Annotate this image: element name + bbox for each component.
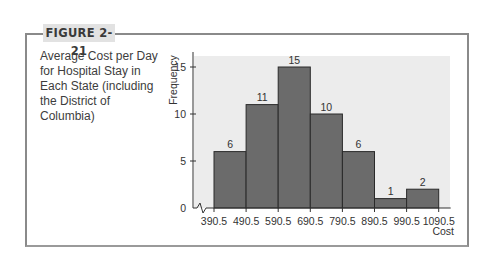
y-tick-label: 10 (174, 108, 186, 120)
x-tick-label: 990.5 (393, 215, 419, 227)
bar-value-label: 10 (321, 101, 333, 113)
bar-value-label: 2 (420, 176, 426, 188)
y-tick-label: 0 (180, 202, 186, 214)
bar-value-label: 1 (388, 185, 394, 197)
histogram-bar (342, 152, 374, 208)
histogram-bar (214, 152, 246, 208)
x-tick-label: 790.5 (329, 215, 355, 227)
histogram-bar (246, 105, 278, 208)
x-tick-label: 490.5 (233, 215, 259, 227)
bar-value-label: 15 (288, 54, 300, 66)
y-axis-label: Frequency (167, 54, 179, 104)
x-tick-label: 390.5 (201, 215, 227, 227)
histogram-chart: 6111510612051015Frequency390.5490.5590.5… (0, 0, 488, 267)
histogram-bar (375, 199, 407, 208)
histogram-bar (407, 189, 439, 208)
x-tick-label: 590.5 (265, 215, 291, 227)
bar-value-label: 6 (356, 138, 362, 150)
x-tick-label: 890.5 (361, 215, 387, 227)
x-axis-label: Cost (432, 225, 454, 237)
y-tick-label: 5 (180, 155, 186, 167)
bar-value-label: 6 (227, 138, 233, 150)
bar-value-label: 11 (257, 91, 268, 103)
x-tick-label: 690.5 (297, 215, 323, 227)
histogram-bar (310, 114, 342, 208)
histogram-bar (278, 67, 310, 208)
